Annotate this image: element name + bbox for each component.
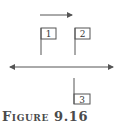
figure-caption: Figure 9.16 — [2, 109, 88, 124]
flag-3-label: 3 — [79, 95, 85, 105]
flag-1-label: 1 — [46, 29, 52, 39]
flag-2-label: 2 — [80, 29, 86, 39]
flag-1: 1 — [41, 28, 56, 55]
flag-3: 3 — [74, 78, 90, 105]
flag-2: 2 — [75, 28, 90, 55]
